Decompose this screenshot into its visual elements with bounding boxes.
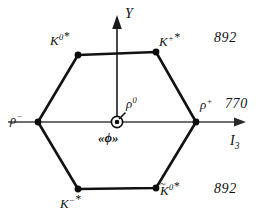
vertex-dot-rhominus xyxy=(35,119,42,126)
vertex-dot-Kminusstar xyxy=(75,186,82,193)
label-antiK0star: ~K0* xyxy=(160,181,180,197)
vertex-dot-antiK0star xyxy=(153,185,160,192)
label-rho-zero: ρ0 xyxy=(126,96,137,110)
label-mass-770: 770 xyxy=(225,97,248,111)
label-rho-minus: ρ− xyxy=(10,112,22,126)
vertex-dot-K0star xyxy=(75,52,82,59)
weight-diagram-figure: K0* K+* 892 ρ− ρ0 «ϕ» ρ+ 770 I3 Y K−* ~K… xyxy=(0,0,259,223)
label-hypercharge-axis: Y xyxy=(125,7,133,21)
label-rho-plus: ρ+ xyxy=(200,97,212,111)
label-phi: «ϕ» xyxy=(98,131,119,144)
isospin-axis-line xyxy=(8,118,246,127)
label-Kminusstar: K−* xyxy=(60,194,81,210)
label-mass-892-bottom: 892 xyxy=(214,182,237,196)
hypercharge-axis-line xyxy=(112,15,122,122)
label-mass-892-top: 892 xyxy=(214,31,237,45)
vertex-dot-rhoplus xyxy=(193,119,200,126)
label-isospin-axis: I3 xyxy=(230,134,239,151)
rho0-leader-line xyxy=(120,113,126,119)
vertex-dot-Kplusstar xyxy=(153,49,160,56)
label-K0star: K0* xyxy=(50,31,70,47)
label-Kplusstar: K+* xyxy=(159,32,180,48)
